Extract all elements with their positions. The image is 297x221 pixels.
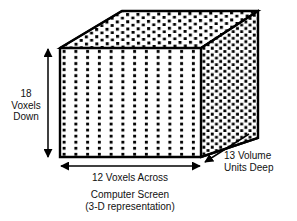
caption-line-2: (3-D representation) — [46, 201, 214, 213]
depth-label-line-2: Units Deep — [224, 162, 273, 173]
figure-canvas: 18 Voxels Down 12 Voxels Across Computer… — [0, 0, 297, 221]
width-dimension-label: 12 Voxels Across — [52, 172, 208, 184]
caption-line-1: Computer Screen — [46, 189, 214, 201]
depth-dimension-label: 13 VolumeUnits Deep — [224, 150, 297, 173]
front-face-rect — [60, 48, 201, 157]
height-dimension-label: 18 Voxels Down — [0, 88, 52, 123]
depth-label-line-1: 13 Volume — [224, 150, 271, 161]
cube-front-face — [60, 48, 201, 157]
